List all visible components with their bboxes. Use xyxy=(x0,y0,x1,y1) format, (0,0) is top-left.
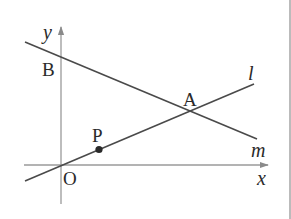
point-b-label: B xyxy=(42,59,55,80)
y-axis-label: y xyxy=(41,21,52,44)
line-m xyxy=(25,42,257,139)
line-l xyxy=(25,84,254,181)
point-a-label: A xyxy=(183,89,197,110)
origin-label: O xyxy=(63,168,77,189)
x-axis-label: x xyxy=(256,167,266,189)
point-p-marker xyxy=(95,146,102,153)
coordinate-diagram: y x O B A P l m xyxy=(0,0,291,219)
line-m-label: m xyxy=(251,139,265,161)
point-p-label: P xyxy=(92,125,103,146)
line-l-label: l xyxy=(248,62,254,84)
